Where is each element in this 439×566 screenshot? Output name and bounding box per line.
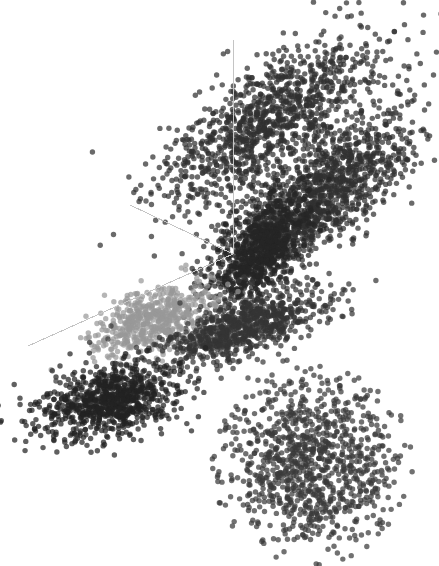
axis-tripod <box>0 0 439 566</box>
scatter-plot-figure <box>0 0 439 566</box>
left-depth-axis <box>130 205 233 254</box>
lower-left-axis <box>28 254 233 346</box>
